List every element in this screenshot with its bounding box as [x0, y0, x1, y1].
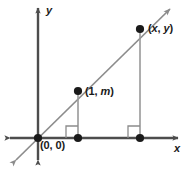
point-label-1-m: (1, m): [85, 85, 114, 97]
point-x-y: [136, 25, 144, 33]
x-axis-label: x: [174, 142, 180, 154]
point-1-m: [74, 87, 82, 95]
y-axis-label: y: [46, 4, 52, 16]
foot-point-1: [74, 134, 82, 142]
point-label-x-y: (x, y): [148, 22, 173, 34]
slope-diagram: (x, y) (1, m) (0, 0) y x: [0, 0, 188, 171]
point-label-origin: (0, 0): [40, 139, 65, 151]
foot-point-2: [136, 134, 144, 142]
